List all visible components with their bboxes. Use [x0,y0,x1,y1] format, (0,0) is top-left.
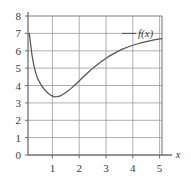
horizontal-gridlines [28,33,162,137]
y-axis-tick-labels: 8 7 6 5 4 3 2 1 0 [16,10,22,161]
y-tick-label-0: 0 [16,149,22,161]
x-tick-label-5: 5 [157,162,163,174]
function-graph: 8 7 6 5 4 3 2 1 0 1 2 3 4 5 x f(x) [0,0,191,183]
y-tick-label-2: 2 [16,114,22,126]
y-tick-label-5: 5 [16,62,22,74]
function-curve [29,33,162,96]
x-tick-label-3: 3 [103,162,109,174]
y-tick-label-4: 4 [16,80,22,92]
x-axis-tick-labels: 1 2 3 4 5 [50,162,163,174]
y-tick-label-8: 8 [16,10,22,22]
curve-label: f(x) [138,27,154,40]
x-tick-label-4: 4 [130,162,136,174]
y-tick-label-1: 1 [16,132,22,144]
x-tick-label-1: 1 [50,162,56,174]
figure-container: 8 7 6 5 4 3 2 1 0 1 2 3 4 5 x f(x) [0,0,191,183]
y-tick-label-6: 6 [16,45,22,57]
y-tick-label-7: 7 [16,27,22,39]
y-tick-label-3: 3 [16,97,22,109]
x-axis-label: x [175,149,181,160]
x-tick-label-2: 2 [76,162,82,174]
